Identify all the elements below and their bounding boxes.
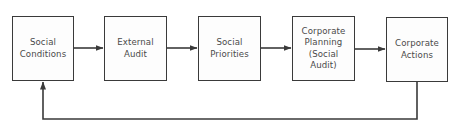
node-corporate-actions: Corporate Actions: [386, 17, 448, 82]
node-label: Social Priorities: [210, 37, 249, 60]
node-label: Corporate Planning (Social Audit): [302, 26, 346, 72]
node-label: External Audit: [117, 37, 153, 60]
node-corporate-planning: Corporate Planning (Social Audit): [292, 16, 355, 81]
node-social-priorities: Social Priorities: [198, 16, 261, 81]
node-social-conditions: Social Conditions: [12, 16, 74, 81]
node-label: Social Conditions: [20, 37, 67, 60]
arrow-feedback-loop: [43, 82, 417, 119]
node-external-audit: External Audit: [104, 16, 167, 81]
node-label: Corporate Actions: [395, 38, 439, 61]
process-flow-diagram: Social Conditions External Audit Social …: [0, 0, 461, 127]
